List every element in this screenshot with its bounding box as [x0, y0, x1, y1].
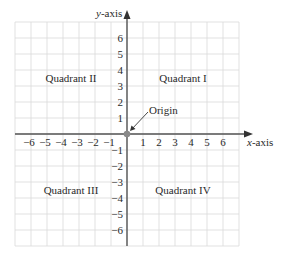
- y-tick-label: 1: [118, 112, 124, 124]
- y-tick-label: −2: [111, 160, 123, 172]
- y-tick-label: 3: [118, 80, 124, 92]
- y-axis-label: y-axis: [95, 7, 122, 19]
- y-tick-label: −5: [111, 208, 123, 220]
- quadrant-iii-label: Quadrant III: [44, 184, 99, 196]
- y-tick-label: 5: [118, 48, 124, 60]
- x-tick-label: −4: [55, 136, 67, 148]
- x-tick-label: 4: [188, 136, 194, 148]
- y-tick-label: −4: [111, 192, 123, 204]
- x-tick-label: −3: [71, 136, 83, 148]
- y-axis-arrow-icon: [124, 10, 131, 19]
- quadrant-i-label: Quadrant I: [159, 72, 207, 84]
- origin-label: Origin: [149, 104, 178, 116]
- y-tick-label: −1: [111, 144, 123, 156]
- coordinate-plane: x-axis y-axis −6−5−4−3−2−1123456 654321−…: [0, 0, 285, 256]
- x-axis-label: x-axis: [246, 136, 273, 148]
- x-tick-label: −5: [39, 136, 51, 148]
- x-tick-label: 2: [156, 136, 162, 148]
- x-tick-label: 6: [220, 136, 226, 148]
- x-tick-label: 5: [204, 136, 210, 148]
- x-tick-labels: −6−5−4−3−2−1123456: [23, 136, 226, 148]
- x-tick-label: −2: [87, 136, 99, 148]
- x-axis-label-text: -axis: [252, 136, 273, 148]
- y-tick-label: 4: [118, 64, 124, 76]
- x-tick-label: −6: [23, 136, 35, 148]
- x-tick-label: 1: [140, 136, 146, 148]
- origin-dot: [124, 131, 131, 138]
- y-tick-label: −6: [111, 224, 123, 236]
- quadrant-ii-label: Quadrant II: [45, 72, 96, 84]
- y-tick-label: 6: [118, 32, 124, 44]
- x-tick-label: 3: [172, 136, 178, 148]
- y-tick-label: −3: [111, 176, 123, 188]
- y-tick-label: 2: [118, 96, 124, 108]
- quadrant-iv-label: Quadrant IV: [155, 184, 210, 196]
